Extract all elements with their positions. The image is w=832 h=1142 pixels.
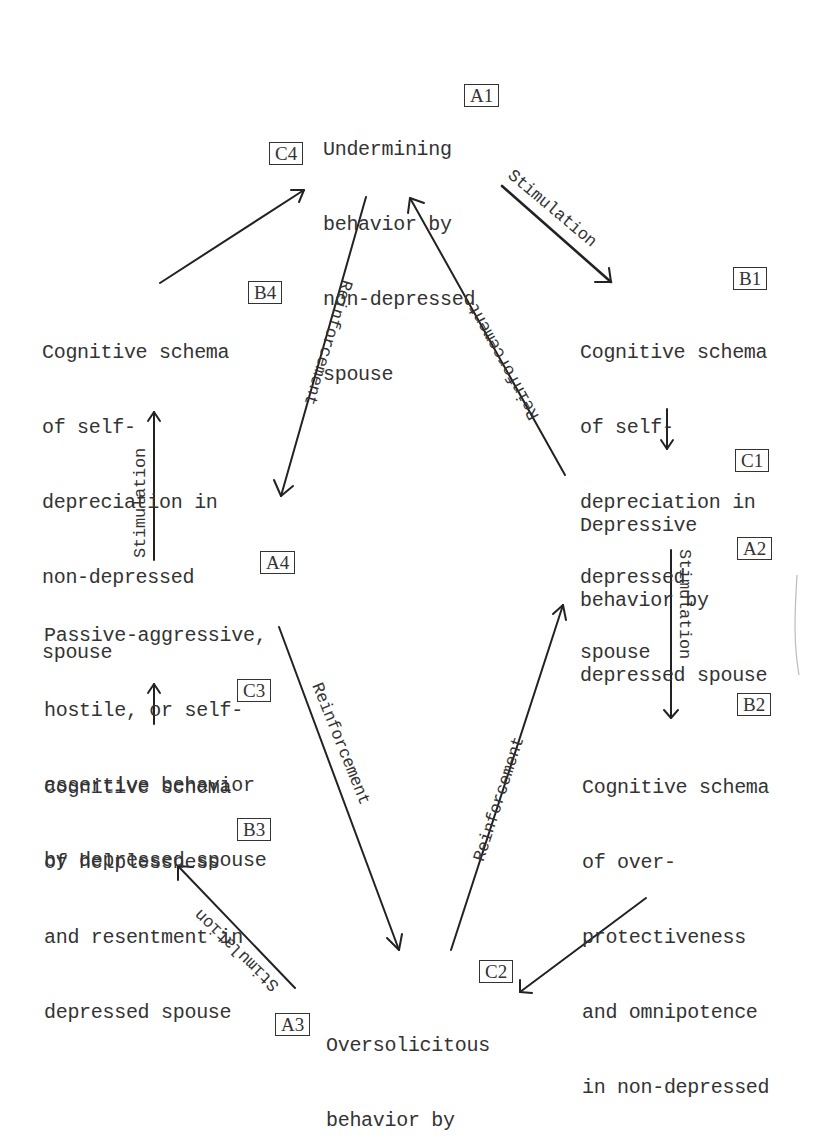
node-b2-line-5: in non-depressed (582, 1075, 769, 1100)
scan-mark (795, 575, 799, 675)
node-c1-line-3: depressed spouse (580, 663, 767, 688)
tag-b1: B1 (733, 267, 767, 290)
node-a1-line-4: spouse (323, 362, 475, 387)
tag-b3: B3 (237, 818, 271, 841)
tag-b2: B2 (737, 693, 771, 716)
node-c1-depressive-behavior: Depressive behavior by depressed spouse (580, 463, 767, 713)
tag-b4: B4 (248, 281, 282, 304)
node-a1-undermining-behavior: Undermining behavior by non-depressed sp… (323, 87, 475, 412)
tag-c1: C1 (735, 449, 769, 472)
node-a1-line-1: Undermining (323, 137, 475, 162)
node-c1-line-2: behavior by (580, 588, 767, 613)
node-a1-line-2: behavior by (323, 212, 475, 237)
tag-a4: A4 (260, 551, 295, 574)
node-b2-line-2: of over- (582, 850, 769, 875)
tag-c4: C4 (269, 142, 303, 165)
node-a1-line-3: non-depressed (323, 287, 475, 312)
arrow-b4-to-c4 (160, 190, 304, 283)
tag-a2: A2 (737, 537, 772, 560)
node-b2-overprotectiveness-omnipotence: Cognitive schema of over- protectiveness… (582, 725, 769, 1142)
node-a4-line-1: Passive-aggressive, (44, 623, 266, 648)
node-b2-line-3: protectiveness (582, 925, 769, 950)
arrow-a4-to-a3 (279, 627, 402, 950)
node-b3-helplessness-resentment: Cognitive schema of helplessness and res… (44, 725, 243, 1050)
node-b4-line-3: depreciation in (42, 490, 229, 515)
node-a3-line-2: behavior by (326, 1108, 490, 1133)
tag-a1: A1 (464, 84, 499, 107)
node-b1-line-2: of self- (580, 415, 767, 440)
node-b3-line-2: of helplessness (44, 850, 243, 875)
node-b1-line-1: Cognitive schema (580, 340, 767, 365)
node-b3-line-1: Cognitive schema (44, 775, 243, 800)
tag-c2: C2 (479, 960, 513, 983)
node-a4-line-2: hostile, or self- (44, 698, 266, 723)
node-b2-line-1: Cognitive schema (582, 775, 769, 800)
node-c1-line-1: Depressive (580, 513, 767, 538)
node-b2-line-4: and omnipotence (582, 1000, 769, 1025)
node-a3-line-1: Oversolicitous (326, 1033, 490, 1058)
tag-c3: C3 (237, 679, 271, 702)
node-b4-line-1: Cognitive schema (42, 340, 229, 365)
node-b3-line-3: and resentment in (44, 925, 243, 950)
tag-a3: A3 (275, 1013, 310, 1036)
node-b3-line-4: depressed spouse (44, 1000, 243, 1025)
node-a3-oversolicitous-behavior: Oversolicitous behavior by non-depressed… (326, 983, 490, 1142)
node-b4-line-2: of self- (42, 415, 229, 440)
